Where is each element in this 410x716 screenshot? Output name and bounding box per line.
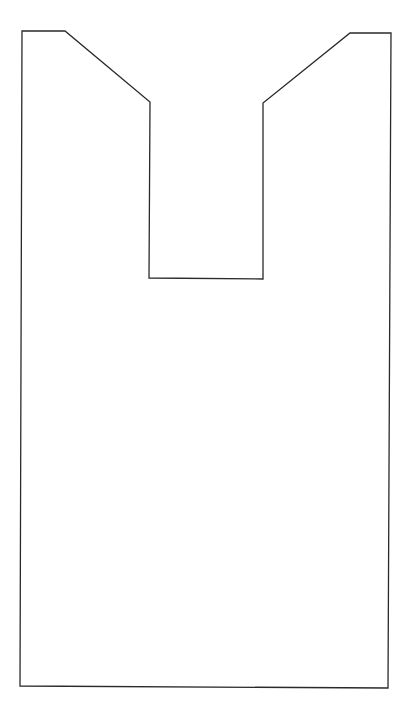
diagram-canvas bbox=[0, 0, 410, 716]
background bbox=[0, 0, 410, 716]
